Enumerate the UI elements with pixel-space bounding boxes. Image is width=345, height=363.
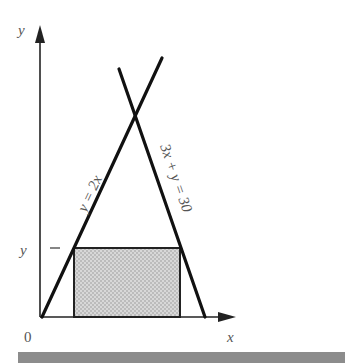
shaded-rectangle [74, 248, 180, 317]
x-axis-arrow-icon [218, 312, 236, 322]
equation-3x-plus-y-equals-30: 3x + y = 30 [157, 141, 196, 215]
rectangle-height-label: y [18, 242, 27, 258]
y-axis-label: y [16, 22, 25, 38]
y-axis-arrow-icon [35, 25, 45, 43]
diagram: y y 0 x y = 2x 3x + y = 30 [0, 0, 345, 363]
origin-label: 0 [24, 329, 32, 345]
bottom-divider-bar [18, 352, 345, 363]
x-axis-label: x [226, 329, 234, 345]
